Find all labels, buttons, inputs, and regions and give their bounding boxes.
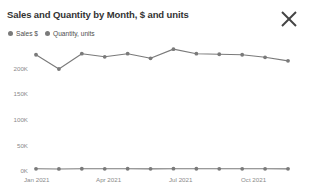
- data-point[interactable]: [34, 167, 38, 171]
- data-point[interactable]: [286, 59, 290, 63]
- data-point[interactable]: [57, 167, 61, 171]
- data-point[interactable]: [240, 53, 244, 57]
- series-line-0: [36, 49, 288, 69]
- data-point[interactable]: [80, 52, 84, 56]
- data-point[interactable]: [172, 167, 176, 171]
- plot-area: 200K 150K 100K 50K 0K Jan 2021 Apr 2021 …: [0, 0, 309, 193]
- data-point[interactable]: [217, 167, 221, 171]
- data-point[interactable]: [126, 52, 130, 56]
- data-point[interactable]: [240, 167, 244, 171]
- data-point[interactable]: [194, 52, 198, 56]
- data-point[interactable]: [263, 167, 267, 171]
- data-point[interactable]: [286, 167, 290, 171]
- series-lines: [0, 0, 309, 193]
- data-point[interactable]: [263, 55, 267, 59]
- data-point[interactable]: [103, 167, 107, 171]
- data-point[interactable]: [80, 167, 84, 171]
- data-point[interactable]: [34, 53, 38, 57]
- chart-card: Sales and Quantity by Month, $ and units…: [0, 0, 309, 193]
- data-point[interactable]: [172, 47, 176, 51]
- data-point[interactable]: [57, 67, 61, 71]
- data-point[interactable]: [103, 55, 107, 59]
- data-point[interactable]: [217, 52, 221, 56]
- data-point[interactable]: [149, 167, 153, 171]
- data-point[interactable]: [126, 167, 130, 171]
- data-point[interactable]: [194, 167, 198, 171]
- data-point[interactable]: [149, 56, 153, 60]
